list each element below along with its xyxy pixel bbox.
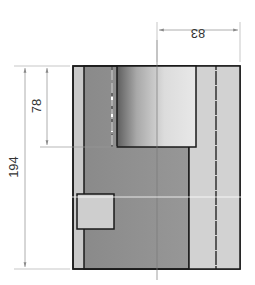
- part-outline: [73, 66, 240, 269]
- side-hole-feature: [77, 194, 114, 229]
- dimension-total-height: 194: [6, 66, 70, 269]
- dimension-label-83: 83: [191, 26, 205, 41]
- dimension-label-78: 78: [29, 99, 44, 113]
- dimension-width: 83: [157, 22, 240, 62]
- technical-drawing: 83 194 78: [0, 0, 255, 285]
- dimension-label-194: 194: [6, 156, 21, 178]
- bore-cavity: [117, 66, 196, 147]
